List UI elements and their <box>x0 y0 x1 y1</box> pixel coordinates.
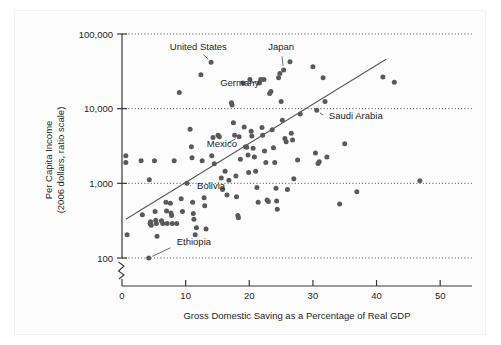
data-point <box>380 75 385 80</box>
data-point <box>288 59 293 64</box>
x-axis-tick-label: 50 <box>435 290 446 301</box>
data-point <box>251 146 256 151</box>
data-point <box>260 125 265 130</box>
annotation-label: Germany <box>220 77 259 88</box>
annotation-leader-line <box>282 56 283 66</box>
x-axis-ticks-group <box>186 280 441 286</box>
data-point <box>179 196 184 201</box>
data-point <box>174 221 179 226</box>
annotation-label: Ethiopia <box>177 236 212 247</box>
data-point <box>139 158 144 163</box>
data-point <box>230 102 235 107</box>
data-point <box>242 124 247 129</box>
data-point <box>231 120 236 125</box>
y-axis-tick-label: 100,000 <box>79 29 113 40</box>
annotation-label: Saudi Arabia <box>329 110 384 121</box>
y-axis-title-line2: (2006 dollars, ratio scale) <box>55 107 66 214</box>
data-point <box>317 159 322 164</box>
data-point <box>236 215 241 220</box>
data-point <box>191 217 196 222</box>
data-point <box>209 153 214 158</box>
x-axis-tick-labels-group: 01020304050 <box>119 290 445 301</box>
data-point <box>256 200 261 205</box>
annotation-label: Mexico <box>207 138 237 149</box>
data-point <box>226 178 231 183</box>
data-point <box>244 145 249 150</box>
data-point <box>168 201 173 206</box>
data-point <box>180 209 185 214</box>
data-point <box>223 169 228 174</box>
data-point <box>274 186 279 191</box>
data-point <box>272 160 277 165</box>
data-point <box>177 90 182 95</box>
data-point <box>279 99 284 104</box>
data-point <box>209 60 214 65</box>
data-point <box>417 178 422 183</box>
data-point <box>263 160 268 165</box>
data-point <box>237 134 242 139</box>
annotation-leader-line <box>203 54 208 59</box>
annotation-leader-line <box>152 248 170 256</box>
data-point <box>314 108 319 113</box>
data-point <box>392 80 397 85</box>
data-point <box>337 201 342 206</box>
data-point <box>323 99 328 104</box>
data-point <box>342 141 347 146</box>
data-point <box>280 118 285 123</box>
data-point <box>169 213 174 218</box>
data-points-group <box>123 59 422 260</box>
y-axis-tick-labels-group: 1001,00010,000100,000 <box>79 29 113 264</box>
data-point <box>191 211 196 216</box>
x-axis-tick-label: 0 <box>119 290 124 301</box>
y-axis-tick-label: 100 <box>97 253 113 264</box>
data-point <box>284 139 289 144</box>
axis-break-icon <box>119 262 125 279</box>
x-axis-tick-label: 30 <box>308 290 319 301</box>
y-axis-tick-label: 10,000 <box>84 103 113 114</box>
data-point <box>225 192 230 197</box>
scatter-plot-svg: 1001,00010,000100,000 01020304050 United… <box>0 0 501 345</box>
data-point <box>270 127 275 132</box>
data-point <box>268 89 273 94</box>
y-axis-title: Per Capita Income (2006 dollars, ratio s… <box>43 107 66 214</box>
data-point <box>155 234 160 239</box>
data-point <box>285 187 290 192</box>
data-point <box>198 72 203 77</box>
data-point <box>152 158 157 163</box>
data-point <box>246 152 251 157</box>
x-axis-tick-label: 40 <box>371 290 382 301</box>
data-point <box>290 138 295 143</box>
data-point <box>238 157 243 162</box>
data-point <box>321 75 326 80</box>
data-point <box>324 155 329 160</box>
data-point <box>277 71 282 76</box>
data-point <box>253 169 258 174</box>
data-point <box>291 176 296 181</box>
data-point <box>125 232 130 237</box>
annotation-label: Bolivia <box>197 180 226 191</box>
data-point <box>164 209 169 214</box>
data-point <box>190 155 195 160</box>
data-point <box>266 199 271 204</box>
data-point <box>202 203 207 208</box>
data-point <box>234 194 239 199</box>
data-point <box>202 195 207 200</box>
data-point <box>123 160 128 165</box>
figure-container: 1001,00010,000100,000 01020304050 United… <box>0 0 501 345</box>
data-point <box>262 149 267 154</box>
data-point <box>281 67 286 72</box>
data-point <box>163 200 168 205</box>
data-point <box>154 221 159 226</box>
annotation-label: Japan <box>268 41 294 52</box>
data-point <box>188 127 193 132</box>
data-point <box>260 133 265 138</box>
data-point <box>190 200 195 205</box>
data-point <box>313 150 318 155</box>
data-point <box>123 153 128 158</box>
data-point <box>354 189 359 194</box>
data-point <box>249 129 254 134</box>
data-point <box>170 221 175 226</box>
data-point <box>153 209 158 214</box>
x-axis-tick-label: 10 <box>180 290 191 301</box>
data-point <box>310 64 315 69</box>
